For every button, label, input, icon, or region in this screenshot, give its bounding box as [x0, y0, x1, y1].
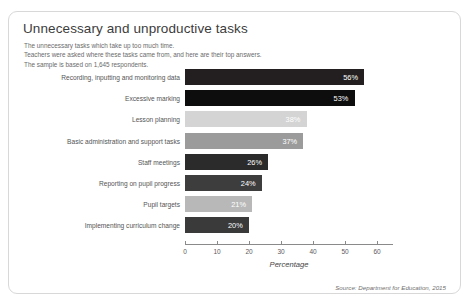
bar-category-label: Staff meetings: [138, 158, 180, 165]
x-axis-tick: [249, 241, 250, 245]
subtitle-line-1: The unnecessary tasks which take up too …: [24, 41, 262, 50]
bar-value-label: 24%: [241, 178, 256, 187]
bar-row: Excessive marking53%: [24, 90, 444, 106]
bar-value-label: 56%: [343, 73, 358, 82]
bar-category-label: Recording, inputting and monitoring data: [61, 74, 180, 81]
bar-row: Staff meetings26%: [24, 154, 444, 170]
x-axis-tick-label: 10: [213, 248, 220, 255]
bar-value-label: 21%: [231, 200, 246, 209]
bar-track: Basic administration and support tasks37…: [185, 133, 444, 149]
x-axis-tick-label: 50: [341, 248, 348, 255]
bar-value-label: 38%: [286, 115, 301, 124]
bar-value-label: 37%: [282, 136, 297, 145]
bar-category-label: Pupil targets: [143, 201, 180, 208]
chart-subtitle: The unnecessary tasks which take up too …: [24, 41, 262, 69]
x-axis-tick-label: 20: [245, 248, 252, 255]
bar-row: Pupil targets21%: [24, 196, 444, 212]
bar-category-label: Lesson planning: [132, 116, 180, 123]
source-note: Source: Department for Education, 2015: [335, 284, 446, 291]
bar-row: Implementing curriculum change20%: [24, 217, 444, 233]
page-title: Unnecessary and unproductive tasks: [23, 21, 248, 36]
bar[interactable]: [185, 69, 364, 85]
x-axis-title: Percentage: [270, 260, 309, 269]
x-axis-tick-label: 40: [309, 248, 316, 255]
bar-track: Implementing curriculum change20%: [185, 217, 444, 233]
bar[interactable]: [185, 90, 355, 106]
bar-value-label: 26%: [247, 157, 262, 166]
subtitle-line-3: The sample is based on 1,645 respondents…: [24, 60, 262, 69]
x-axis-tick-label: 30: [277, 248, 284, 255]
bar-row: Reporting on pupil progress24%: [24, 175, 444, 191]
bar-category-label: Basic administration and support tasks: [67, 137, 180, 144]
bar-row: Lesson planning38%: [24, 111, 444, 127]
bar-value-label: 53%: [334, 94, 349, 103]
x-axis-tick: [345, 241, 346, 245]
subtitle-line-2: Teachers were asked where these tasks ca…: [24, 50, 262, 59]
bar-track: Reporting on pupil progress24%: [185, 175, 444, 191]
bar-track: Excessive marking53%: [185, 90, 444, 106]
x-axis-tick: [313, 241, 314, 245]
x-axis-tick: [377, 241, 378, 245]
bar-track: Lesson planning38%: [185, 111, 444, 127]
bar-category-label: Excessive marking: [125, 95, 180, 102]
bar-category-label: Implementing curriculum change: [85, 222, 180, 229]
bar-chart-plot: Recording, inputting and monitoring data…: [24, 69, 444, 244]
bar-row: Recording, inputting and monitoring data…: [24, 69, 444, 85]
bar-track: Recording, inputting and monitoring data…: [185, 69, 444, 85]
bar-row: Basic administration and support tasks37…: [24, 133, 444, 149]
x-axis-tick-label: 0: [183, 248, 187, 255]
bar-value-label: 20%: [228, 221, 243, 230]
x-axis-tick: [185, 241, 186, 245]
x-axis-tick: [281, 241, 282, 245]
x-axis-tick: [217, 241, 218, 245]
bar-track: Staff meetings26%: [185, 154, 444, 170]
x-axis-line: [185, 244, 393, 245]
x-axis-tick-label: 60: [373, 248, 380, 255]
chart-card: Unnecessary and unproductive tasks The u…: [8, 11, 461, 294]
bar-track: Pupil targets21%: [185, 196, 444, 212]
bar-category-label: Reporting on pupil progress: [99, 179, 180, 186]
